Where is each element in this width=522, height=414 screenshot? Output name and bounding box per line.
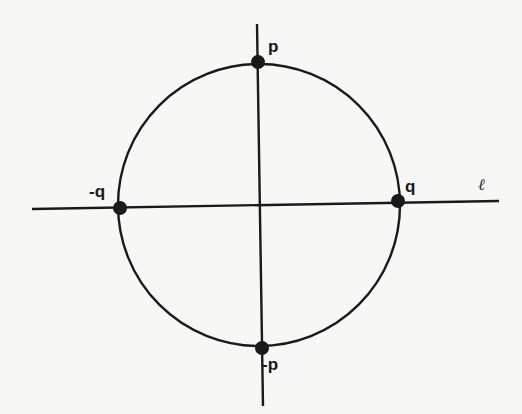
label-p: p (268, 37, 278, 56)
horizontal-line-l (32, 201, 499, 209)
label-neg-p: -p (262, 355, 278, 374)
point-q (391, 194, 405, 208)
diagram-canvas: p -p -q q ℓ (0, 0, 522, 414)
label-q: q (405, 177, 415, 196)
point-p (251, 55, 265, 69)
point-neg-q (113, 201, 127, 215)
label-line-l: ℓ (478, 175, 485, 194)
point-neg-p (255, 341, 269, 355)
label-neg-q: -q (89, 182, 105, 201)
